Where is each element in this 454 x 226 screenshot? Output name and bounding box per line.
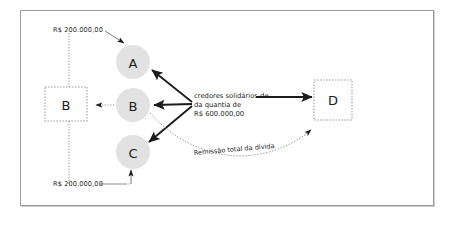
node-square-d-label: D bbox=[328, 93, 338, 108]
arrow-to-circle-a bbox=[152, 70, 192, 102]
node-circle-a-label: A bbox=[129, 56, 138, 71]
arrow-to-circle-b bbox=[154, 104, 192, 105]
label-amount-top: R$ 200.000,00 bbox=[53, 26, 103, 34]
node-circle-b-label: B bbox=[129, 99, 138, 114]
node-circle-c-label: C bbox=[128, 146, 137, 161]
diagram-canvas: B A B C D R$ 200.000,00 R$ 200.000,00 cr… bbox=[0, 0, 454, 226]
node-square-b-label: B bbox=[62, 98, 71, 113]
label-center-line1: credores solidários de bbox=[194, 92, 269, 100]
label-center-line3: R$ 600.000,00 bbox=[194, 110, 244, 118]
label-center-line2: da quantia de bbox=[194, 101, 241, 109]
arrow-to-circle-c bbox=[149, 106, 192, 142]
diagram-page: B A B C D R$ 200.000,00 R$ 200.000,00 cr… bbox=[0, 0, 454, 226]
label-amount-bottom: R$ 200.000,00 bbox=[53, 180, 103, 188]
label-curve-remissao: Remissão total da dívida bbox=[193, 142, 275, 157]
leader-top-amount bbox=[105, 31, 124, 43]
